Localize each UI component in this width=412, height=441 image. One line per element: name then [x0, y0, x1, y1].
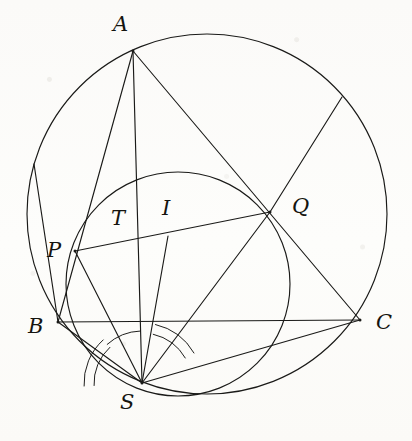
vertex-dot-B: [57, 321, 60, 324]
segment-A-C: [133, 51, 360, 320]
vertex-dot-S: [141, 382, 144, 385]
vertex-dot-layer: [57, 50, 362, 385]
segment-P-Q: [75, 212, 270, 251]
segment-A-S: [133, 51, 142, 383]
segment-S-C: [142, 320, 360, 383]
point-label-B: B: [28, 316, 43, 337]
segment-S-P: [75, 251, 142, 383]
circle-layer: [27, 34, 387, 396]
diagram-page: A Q T I P B C S: [0, 0, 412, 441]
point-label-A: A: [113, 14, 128, 35]
arc-BSP-outer: [84, 340, 103, 386]
segment-S-Q: [142, 212, 270, 383]
geometry-figure: [0, 0, 412, 441]
point-label-T: T: [111, 208, 125, 229]
point-label-S: S: [120, 392, 134, 413]
point-label-P: P: [47, 240, 61, 261]
segment-S-B: [58, 322, 142, 383]
segment-layer: [58, 51, 360, 383]
incircle: [66, 172, 290, 396]
segment-B-C: [58, 320, 360, 322]
arc-PST: [107, 331, 140, 344]
vertex-dot-C: [359, 319, 362, 322]
vertex-dot-Q: [269, 211, 272, 214]
vertex-dot-P: [74, 250, 77, 253]
vertex-dot-A: [132, 50, 135, 53]
point-label-C: C: [376, 312, 392, 333]
point-label-Q: Q: [292, 196, 309, 217]
segment-S-I: [142, 236, 168, 383]
point-label-I: I: [162, 198, 170, 219]
